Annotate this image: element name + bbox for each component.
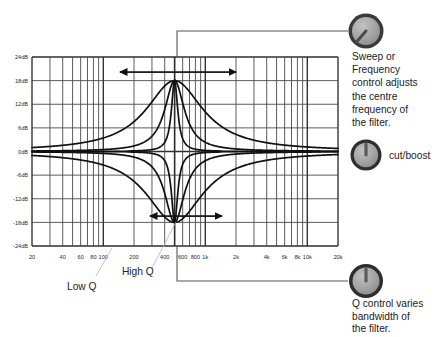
high-q-leader bbox=[152, 222, 176, 268]
q-annotation-text: Q control variesbandwidth ofthe filter. bbox=[352, 298, 423, 334]
x-tick-200: 200 bbox=[129, 254, 138, 260]
q-text-line-2: the filter. bbox=[352, 323, 391, 334]
x-tick-4k: 4k bbox=[264, 254, 270, 260]
x-tick-8k: 8k bbox=[294, 254, 300, 260]
y-axis-tick-labels: 24dB18dB12dB6dB0dB-6dB-12dB-18dB-24dB bbox=[13, 54, 28, 249]
y-tick--18dB: -18dB bbox=[13, 220, 28, 226]
x-tick-40: 40 bbox=[60, 254, 66, 260]
x-tick-10k: 10k bbox=[303, 254, 312, 260]
sweep-text-line-2: control adjusts bbox=[352, 77, 418, 88]
low-q-label: Low Q bbox=[67, 281, 97, 292]
y-tick--12dB: -12dB bbox=[13, 196, 28, 202]
diagram-root: 24dB18dB12dB6dB0dB-6dB-12dB-18dB-24dB 20… bbox=[0, 0, 443, 337]
q-knob-connector bbox=[177, 246, 348, 281]
q-text-line-1: bandwidth of bbox=[352, 311, 410, 322]
y-tick--6dB: -6dB bbox=[16, 172, 28, 178]
response-curve-3 bbox=[32, 155, 338, 223]
x-tick-400: 400 bbox=[160, 254, 169, 260]
sweep-text-line-0: Sweep or bbox=[352, 51, 396, 62]
x-axis-tick-labels: 204060801002004006008001k2k4k6k8k10k20k bbox=[29, 254, 343, 260]
sweep-frequency-knob[interactable] bbox=[349, 14, 384, 49]
y-tick-18dB: 18dB bbox=[15, 78, 28, 84]
sweep-text-line-5: the filter. bbox=[352, 117, 391, 128]
y-tick-12dB: 12dB bbox=[15, 101, 28, 107]
high-q-label: High Q bbox=[122, 266, 154, 277]
response-curve-2 bbox=[32, 81, 338, 152]
cut-boost-label: cut/boost bbox=[389, 150, 431, 161]
x-tick-20: 20 bbox=[29, 254, 35, 260]
response-curve-0 bbox=[32, 81, 338, 149]
cut-boost-knob[interactable] bbox=[351, 140, 382, 171]
x-tick-6k: 6k bbox=[282, 254, 288, 260]
x-tick-1k: 1k bbox=[202, 254, 208, 260]
y-tick-6dB: 6dB bbox=[18, 125, 28, 131]
sweep-annotation-text: Sweep orFrequencycontrol adjuststhe cent… bbox=[352, 51, 418, 128]
sweep-text-line-1: Frequency bbox=[352, 64, 401, 75]
response-curve-5 bbox=[32, 152, 338, 223]
x-tick-2k: 2k bbox=[233, 254, 239, 260]
x-tick-800: 800 bbox=[191, 254, 200, 260]
x-tick-20k: 20k bbox=[333, 254, 342, 260]
y-tick-0dB: 0dB bbox=[18, 149, 28, 155]
low-q-leader bbox=[96, 248, 112, 276]
x-tick-600: 600 bbox=[178, 254, 187, 260]
q-knob[interactable] bbox=[349, 264, 383, 298]
sweep-text-line-4: frequency of bbox=[352, 104, 408, 115]
response-curve-4 bbox=[32, 152, 338, 223]
response-curve-1 bbox=[32, 81, 338, 152]
sweep-text-line-3: the centre bbox=[352, 91, 398, 102]
sweep-knob-connector bbox=[177, 31, 348, 57]
eq-diagram-svg: 24dB18dB12dB6dB0dB-6dB-12dB-18dB-24dB 20… bbox=[0, 0, 443, 337]
y-tick-24dB: 24dB bbox=[15, 54, 28, 60]
q-text-line-0: Q control varies bbox=[352, 298, 423, 309]
x-tick-80: 80 bbox=[90, 254, 96, 260]
x-tick-60: 60 bbox=[78, 254, 84, 260]
y-tick--24dB: -24dB bbox=[13, 243, 28, 249]
